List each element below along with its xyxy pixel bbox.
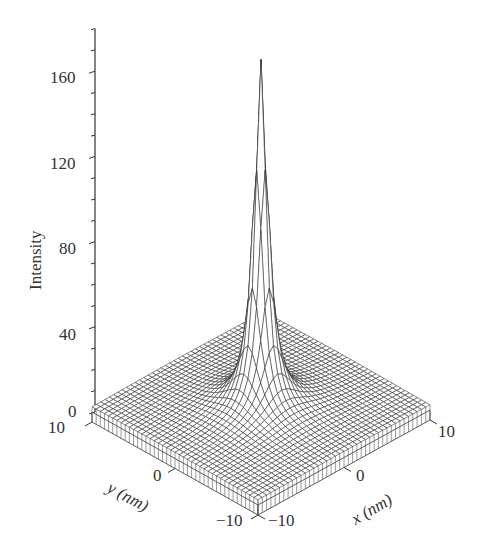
- z-tick-label-40: 40: [59, 325, 76, 345]
- x-tick-label-neg10: −10: [268, 511, 295, 531]
- z-axis: [89, 29, 95, 414]
- x-tick-label-10: 10: [438, 422, 455, 442]
- z-tick-label-120: 120: [50, 154, 76, 174]
- z-tick-label-0: 0: [68, 402, 77, 422]
- z-axis-title: Intensity: [26, 231, 46, 291]
- surface-mesh: [92, 60, 430, 500]
- y-tick-label-10: 10: [48, 418, 65, 438]
- y-tick-label-0: 0: [153, 466, 162, 486]
- z-tick-label-160: 160: [50, 68, 76, 88]
- x-tick-label-0: 0: [356, 466, 365, 486]
- z-tick-label-80: 80: [59, 239, 76, 259]
- y-tick-label-neg10: −10: [216, 511, 243, 531]
